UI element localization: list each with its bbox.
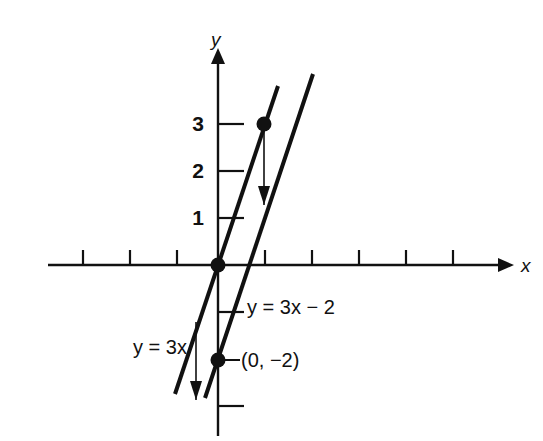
y-tick-label-2: 2: [178, 160, 204, 181]
line-label-y-equals-3x: y = 3x: [133, 337, 187, 357]
point-0-minus2: [211, 353, 226, 368]
coordinate-plane-svg: [0, 0, 543, 441]
graph-figure: y x 3 2 1 y = 3x − 2 y = 3x (0, −2): [0, 0, 543, 441]
x-axis-label: x: [521, 256, 531, 275]
line-label-y-equals-3x-minus-2: y = 3x − 2: [247, 297, 335, 317]
x-axis-ticks: [83, 250, 453, 265]
point-1-3: [257, 117, 272, 132]
y-axis-arrowhead: [211, 48, 225, 64]
x-axis-arrowhead: [498, 258, 514, 272]
y-tick-label-3: 3: [178, 113, 204, 134]
translation-arrow-lower: [190, 322, 202, 400]
point-label-0-minus-2: (0, −2): [241, 350, 299, 370]
y-tick-label-1: 1: [178, 207, 204, 228]
point-origin: [211, 258, 226, 273]
y-axis-label: y: [211, 30, 221, 49]
